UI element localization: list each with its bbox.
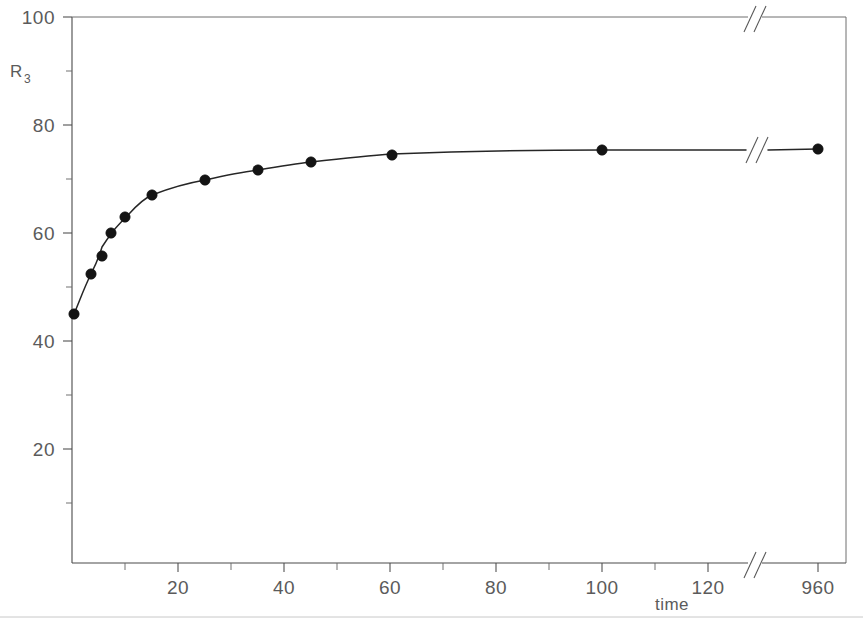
- axis-break-marks: [744, 6, 768, 578]
- y-tick-label-40: 40: [33, 331, 55, 352]
- x-tick-label-120: 120: [691, 577, 724, 598]
- break-mark-bottom-a: [744, 552, 756, 578]
- data-point-t7: [106, 228, 116, 238]
- x-axis-tick-labels: 20 40 60 80 100 120 960: [167, 577, 835, 598]
- plot-frame: [72, 17, 846, 563]
- y-axis-title-base: R: [10, 62, 23, 81]
- data-point-t45: [306, 157, 316, 167]
- y-axis-title-subscript: 3: [24, 72, 31, 86]
- data-point-t25: [200, 175, 210, 185]
- data-point-t100: [597, 145, 607, 155]
- data-series-r3: [69, 144, 823, 319]
- data-point-t960: [813, 144, 823, 154]
- x-tick-label-80: 80: [485, 577, 507, 598]
- break-mark-top-a: [744, 6, 756, 32]
- chart-figure: 100 80 60 40 20 R 3: [0, 0, 863, 619]
- y-tick-label-60: 60: [33, 223, 55, 244]
- x-tick-label-100: 100: [585, 577, 618, 598]
- break-mark-bottom-b: [754, 552, 766, 578]
- break-mark-series-a: [746, 137, 758, 163]
- y-tick-label-100: 100: [22, 7, 55, 28]
- data-point-t60: [387, 150, 397, 160]
- line-chart-svg: 100 80 60 40 20 R 3: [0, 0, 863, 619]
- data-point-t10: [120, 212, 130, 222]
- x-tick-label-20: 20: [167, 577, 189, 598]
- data-point-t5_5: [97, 251, 107, 261]
- y-tick-label-80: 80: [33, 115, 55, 136]
- y-axis-title: R 3: [10, 62, 31, 86]
- x-tick-label-40: 40: [273, 577, 295, 598]
- y-tick-label-20: 20: [33, 439, 55, 460]
- data-point-t15: [147, 190, 157, 200]
- y-axis-ticks: [63, 17, 72, 503]
- x-tick-label-960: 960: [801, 577, 834, 598]
- break-mark-series-b: [756, 137, 768, 163]
- x-tick-label-60: 60: [379, 577, 401, 598]
- break-mark-top-b: [754, 6, 766, 32]
- series-line-path: [74, 149, 818, 314]
- data-point-t1: [69, 309, 79, 319]
- data-point-t3_5: [86, 269, 96, 279]
- data-point-t35: [253, 165, 263, 175]
- x-axis-title: time: [655, 595, 689, 614]
- x-axis-ticks: [125, 563, 818, 572]
